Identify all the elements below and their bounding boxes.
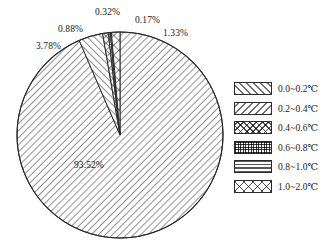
chart-legend: 0.0~0.2℃ 0.2~0.4℃ 0.4~0.6℃ 0.6~0.8℃ 0.8~… — [234, 79, 326, 196]
legend-item-2[interactable]: 0.4~0.6℃ — [234, 118, 326, 138]
legend-label-5: 1.0~2.0℃ — [278, 181, 318, 192]
pie-label-top-right-outer: 1.33% — [163, 28, 188, 38]
legend-swatch-horizontal-lines — [234, 160, 272, 173]
legend-item-5[interactable]: 1.0~2.0℃ — [234, 177, 326, 197]
legend-label-3: 0.6~0.8℃ — [278, 142, 318, 153]
chart-page: 93.52% 3.78% 0.88% 0.32% 0.17% 1.33% 0.0… — [0, 0, 326, 249]
legend-label-0: 0.0~0.2℃ — [278, 83, 318, 94]
legend-swatch-coarse-diagonal-cross — [234, 180, 272, 193]
legend-swatch-fine-grid — [234, 141, 272, 154]
legend-label-2: 0.4~0.6℃ — [278, 122, 318, 133]
legend-label-1: 0.2~0.4℃ — [278, 103, 318, 114]
pie-label-top-right-inner: 0.17% — [135, 15, 160, 25]
pie-label-left-inner: 0.88% — [58, 24, 83, 34]
legend-swatch-forward-diagonal — [234, 82, 272, 95]
legend-item-3[interactable]: 0.6~0.8℃ — [234, 138, 326, 158]
pie-label-left-outer: 3.78% — [36, 41, 61, 51]
pie-label-main: 93.52% — [74, 160, 104, 170]
legend-swatch-diagonal-cross — [234, 121, 272, 134]
legend-label-4: 0.8~1.0℃ — [278, 161, 318, 172]
pie-slices — [17, 32, 223, 238]
legend-item-1[interactable]: 0.2~0.4℃ — [234, 99, 326, 119]
legend-item-4[interactable]: 0.8~1.0℃ — [234, 157, 326, 177]
legend-item-0[interactable]: 0.0~0.2℃ — [234, 79, 326, 99]
pie-label-top-center: 0.32% — [95, 7, 120, 17]
legend-swatch-backward-diagonal — [234, 102, 272, 115]
